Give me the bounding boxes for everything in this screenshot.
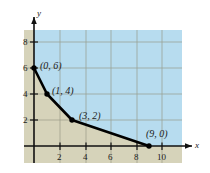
data-point-1-4 bbox=[44, 91, 49, 96]
data-point-0-6 bbox=[31, 65, 36, 70]
data-point-3-2 bbox=[69, 117, 74, 122]
graph-figure: y x 8 6 4 2 2 4 6 8 10 (0, 6) (1, 4) (3,… bbox=[0, 0, 210, 173]
x-axis-arrowhead bbox=[185, 143, 192, 149]
data-point-9-0 bbox=[146, 143, 151, 148]
y-axis-arrowhead bbox=[31, 17, 37, 24]
plot-canvas bbox=[0, 0, 210, 173]
